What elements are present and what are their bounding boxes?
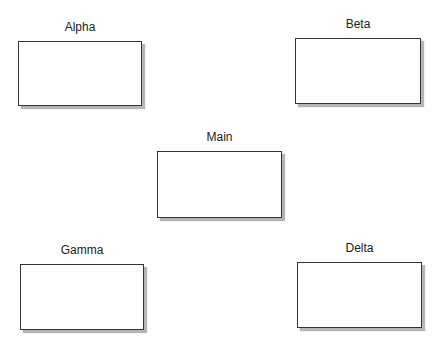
node-box[interactable] xyxy=(20,264,144,330)
node-label: Alpha xyxy=(18,20,142,34)
node-delta[interactable]: Delta xyxy=(297,262,422,328)
node-label: Main xyxy=(157,130,282,144)
node-label: Beta xyxy=(295,17,421,31)
node-gamma[interactable]: Gamma xyxy=(20,264,144,330)
node-box[interactable] xyxy=(18,41,142,106)
node-alpha[interactable]: Alpha xyxy=(18,41,142,106)
node-box[interactable] xyxy=(295,38,421,104)
node-box[interactable] xyxy=(297,262,422,328)
node-label: Delta xyxy=(297,241,422,255)
node-beta[interactable]: Beta xyxy=(295,38,421,104)
node-main[interactable]: Main xyxy=(157,151,282,218)
node-box[interactable] xyxy=(157,151,282,218)
node-label: Gamma xyxy=(20,243,144,257)
